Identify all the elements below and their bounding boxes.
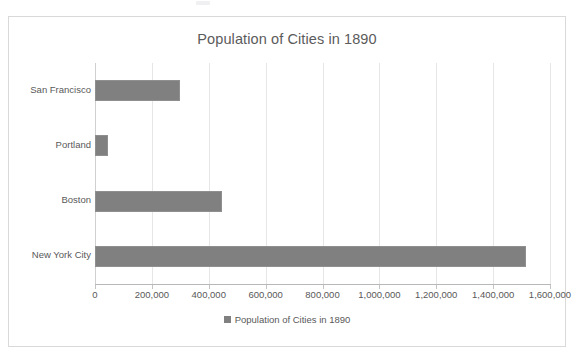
x-tick-label: 1,000,000 <box>358 289 400 300</box>
category-label: Boston <box>11 194 91 205</box>
category-label: New York City <box>11 249 91 260</box>
bar-new-york-city[interactable] <box>95 246 526 267</box>
chart-title: Population of Cities in 1890 <box>9 31 565 47</box>
legend-swatch-icon <box>224 316 231 323</box>
legend-label: Population of Cities in 1890 <box>235 314 351 325</box>
bar-row <box>95 118 550 173</box>
category-label: San Francisco <box>11 84 91 95</box>
x-tick-label: 1,400,000 <box>472 289 514 300</box>
x-tick-label: 600,000 <box>248 289 282 300</box>
chart-legend: Population of Cities in 1890 <box>9 314 565 325</box>
x-tick-mark <box>266 285 267 289</box>
x-tick-mark <box>209 285 210 289</box>
x-tick-label: 800,000 <box>305 289 339 300</box>
plot-area <box>95 63 550 284</box>
category-axis-labels: San FranciscoPortlandBostonNew York City <box>9 63 91 284</box>
x-tick-mark <box>323 285 324 289</box>
x-tick-label: 0 <box>92 289 97 300</box>
x-tick-label: 1,600,000 <box>529 289 571 300</box>
x-tick-label: 1,200,000 <box>415 289 457 300</box>
bar-row <box>95 63 550 118</box>
artifact-smudge <box>196 1 210 5</box>
bar-portland[interactable] <box>95 135 108 156</box>
x-tick-mark <box>493 285 494 289</box>
x-tick-label: 400,000 <box>192 289 226 300</box>
bar-boston[interactable] <box>95 191 222 212</box>
category-label: Portland <box>11 139 91 150</box>
x-tick-mark <box>379 285 380 289</box>
gridline <box>550 63 551 284</box>
bar-san-francisco[interactable] <box>95 80 180 101</box>
bar-row <box>95 174 550 229</box>
bar-row <box>95 229 550 284</box>
top-edge-artifact <box>0 0 577 9</box>
x-tick-mark <box>436 285 437 289</box>
x-tick-label: 200,000 <box>135 289 169 300</box>
chart-frame: Population of Cities in 1890 San Francis… <box>8 16 566 347</box>
x-tick-mark <box>550 285 551 289</box>
x-axis-tick-labels: 0200,000400,000600,000800,0001,000,0001,… <box>9 289 567 305</box>
x-tick-mark <box>152 285 153 289</box>
x-tick-mark <box>95 285 96 289</box>
